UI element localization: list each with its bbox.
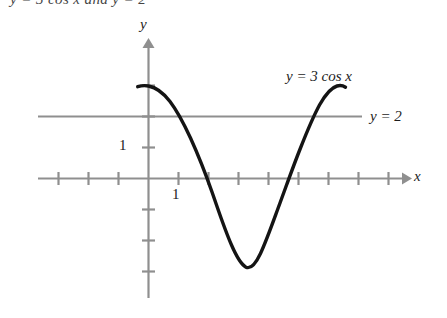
graph-svg — [0, 0, 447, 318]
line-annotation: y = 2 — [370, 108, 402, 125]
x-axis-label: x — [414, 168, 421, 185]
y-axis-label: y — [140, 16, 147, 33]
x-axis-arrowhead — [402, 173, 412, 185]
curve-annotation: y = 3 cos x — [286, 68, 352, 85]
cosine-curve — [138, 86, 346, 268]
x-tick-label-1: 1 — [172, 186, 180, 203]
figure-canvas: y = 3 cos x and y = 2 — [0, 0, 447, 318]
y-tick-label-1: 1 — [119, 137, 127, 154]
y-axis-arrowhead — [143, 38, 155, 48]
